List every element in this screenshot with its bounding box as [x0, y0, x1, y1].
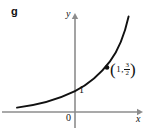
y-tick-label-one: 1 — [79, 85, 84, 95]
marked-point-dot — [105, 65, 110, 70]
close-paren: ) — [130, 64, 136, 76]
x-axis-label: x — [136, 114, 140, 124]
exponential-graph-figure: g y x 0 1 ( 1 , 3 2 ) — [0, 0, 144, 138]
y-axis-label: y — [66, 9, 70, 19]
point-coordinate-label: ( 1 , 3 2 ) — [110, 62, 136, 77]
part-label-g: g — [11, 6, 18, 17]
y-axis-arrowhead — [72, 13, 78, 19]
origin-label: 0 — [66, 113, 71, 123]
